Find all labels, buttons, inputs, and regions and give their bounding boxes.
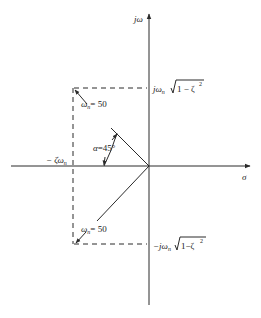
imaginary-axis-label: jω (133, 14, 143, 24)
lower-vector-label: ωn= 50 (81, 224, 107, 235)
s-plane-diagram: jω σ jωn 1 − ζ 2 −jωn 1−ζ 2 − ζωn ωn= 50 (0, 0, 261, 318)
real-axis-label: σ (242, 172, 247, 182)
real-part-label: − ζωn (46, 155, 67, 166)
upper-vector-label: ωn= 50 (81, 99, 107, 110)
lower-pole-vector (97, 166, 149, 221)
svg-text:2: 2 (199, 81, 202, 87)
svg-text:−jωn: −jωn (153, 241, 171, 252)
angle-label: α=45° (93, 143, 116, 153)
svg-text:1−ζ: 1−ζ (181, 241, 195, 251)
svg-text:2: 2 (200, 238, 203, 244)
svg-text:jωn: jωn (152, 84, 165, 95)
upper-imag-label: jωn 1 − ζ 2 (152, 80, 204, 95)
svg-text:1 − ζ: 1 − ζ (177, 84, 195, 94)
lower-imag-label: −jωn 1−ζ 2 (153, 237, 206, 252)
